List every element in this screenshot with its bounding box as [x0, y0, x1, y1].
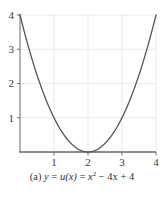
parabola-plot: 1 2 3 4 1 2 3 4	[0, 0, 164, 168]
plot-area: 1 2 3 4 1 2 3 4	[0, 0, 164, 168]
caption-function-arg: (x)	[65, 171, 77, 182]
caption-equals-2: =	[79, 171, 85, 182]
caption-index: (a)	[30, 171, 42, 182]
x-tick-label-3: 3	[119, 156, 125, 168]
x-tick-label-2: 2	[85, 156, 91, 168]
caption-lhs-var: y	[44, 171, 49, 182]
y-tick-label-4: 4	[9, 9, 15, 21]
y-tick-label-1: 1	[9, 112, 15, 124]
y-tick-label-2: 2	[9, 77, 15, 89]
figure-container: 1 2 3 4 1 2 3 4 (a) y = u(x) = x2 − 4x +…	[0, 0, 164, 197]
caption-equals-1: =	[51, 171, 57, 182]
caption-term-exponent: 2	[93, 170, 97, 178]
x-tick-label-1: 1	[51, 156, 57, 168]
caption-term-constant: + 4	[120, 171, 134, 182]
x-tick-label-4: 4	[153, 156, 159, 168]
figure-caption: (a) y = u(x) = x2 − 4x + 4	[0, 170, 164, 183]
y-tick-label-3: 3	[9, 43, 15, 55]
caption-term-linear: − 4x	[99, 171, 118, 182]
